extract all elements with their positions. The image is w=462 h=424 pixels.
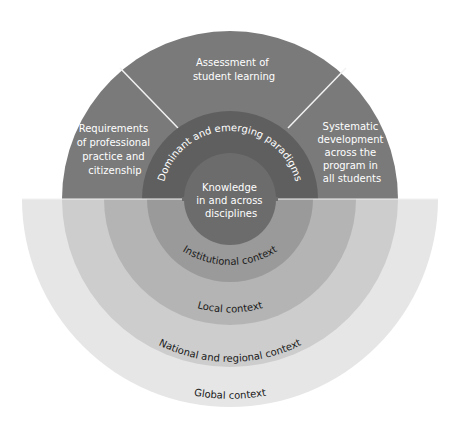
segment-systematic-label: Systematic development across the progra… [317, 121, 386, 184]
curriculum-model-diagram: Assessment of student learning Requireme… [0, 0, 462, 424]
knowledge-core-label: Knowledge in and across disciplines [196, 182, 266, 219]
